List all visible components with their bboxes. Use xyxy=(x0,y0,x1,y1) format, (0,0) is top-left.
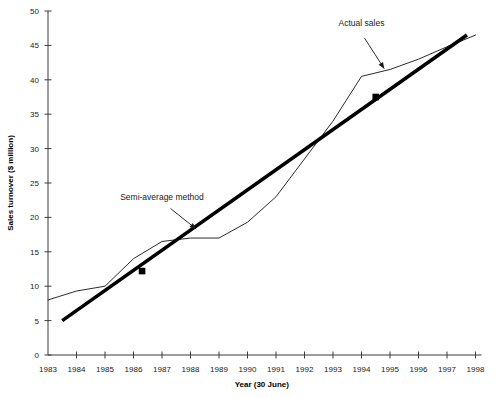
chart-container: 05101520253035404550 1983198419851986198… xyxy=(0,0,496,398)
x-tick-label: 1989 xyxy=(210,365,228,374)
y-tick-label: 30 xyxy=(30,145,39,154)
x-tick-label: 1994 xyxy=(353,365,371,374)
x-tick-label: 1983 xyxy=(39,365,57,374)
y-axis-title: Sales turnover ($ million) xyxy=(6,135,15,231)
x-tick-label: 1984 xyxy=(68,365,86,374)
x-tick-label: 1998 xyxy=(467,365,485,374)
x-tick-label: 1988 xyxy=(182,365,200,374)
y-axis-tick-labels: 05101520253035404550 xyxy=(30,7,39,360)
y-tick-label: 15 xyxy=(30,248,39,257)
y-tick-label: 20 xyxy=(30,213,39,222)
sales-turnover-chart: 05101520253035404550 1983198419851986198… xyxy=(0,0,496,398)
x-axis-tick-labels: 1983198419851986198719881989199019911992… xyxy=(39,365,485,374)
x-tick-label: 1987 xyxy=(153,365,171,374)
semi-average-trend-line xyxy=(62,35,467,321)
y-tick-label: 50 xyxy=(30,7,39,16)
x-tick-label: 1993 xyxy=(324,365,342,374)
y-tick-label: 35 xyxy=(30,110,39,119)
annotation-arrowhead xyxy=(379,62,385,69)
annotation-label: Actual sales xyxy=(339,18,385,28)
x-tick-label: 1995 xyxy=(381,365,399,374)
y-tick-label: 25 xyxy=(30,179,39,188)
annotation-label: Semi-average method xyxy=(120,192,204,202)
trend-point-marker xyxy=(139,268,146,275)
x-axis-title: Year (30 June) xyxy=(235,380,290,389)
y-tick-label: 45 xyxy=(30,41,39,50)
x-tick-label: 1992 xyxy=(296,365,314,374)
trend-point-marker xyxy=(372,94,379,101)
y-tick-label: 0 xyxy=(35,351,40,360)
x-tick-label: 1996 xyxy=(410,365,428,374)
y-tick-label: 40 xyxy=(30,76,39,85)
x-tick-label: 1990 xyxy=(239,365,257,374)
y-tick-label: 5 xyxy=(35,317,40,326)
y-tick-label: 10 xyxy=(30,282,39,291)
x-tick-label: 1997 xyxy=(438,365,456,374)
x-tick-label: 1986 xyxy=(125,365,143,374)
chart-annotations: Actual salesSemi-average method xyxy=(120,18,384,229)
x-tick-label: 1991 xyxy=(267,365,285,374)
x-tick-label: 1985 xyxy=(96,365,114,374)
